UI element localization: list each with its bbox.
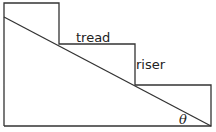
tread-label: tread — [76, 30, 110, 45]
angle-label: θ — [179, 112, 187, 127]
staircase-diagram: tread riser θ — [0, 0, 216, 132]
staircase-outline — [4, 3, 211, 126]
riser-label: riser — [136, 57, 166, 72]
